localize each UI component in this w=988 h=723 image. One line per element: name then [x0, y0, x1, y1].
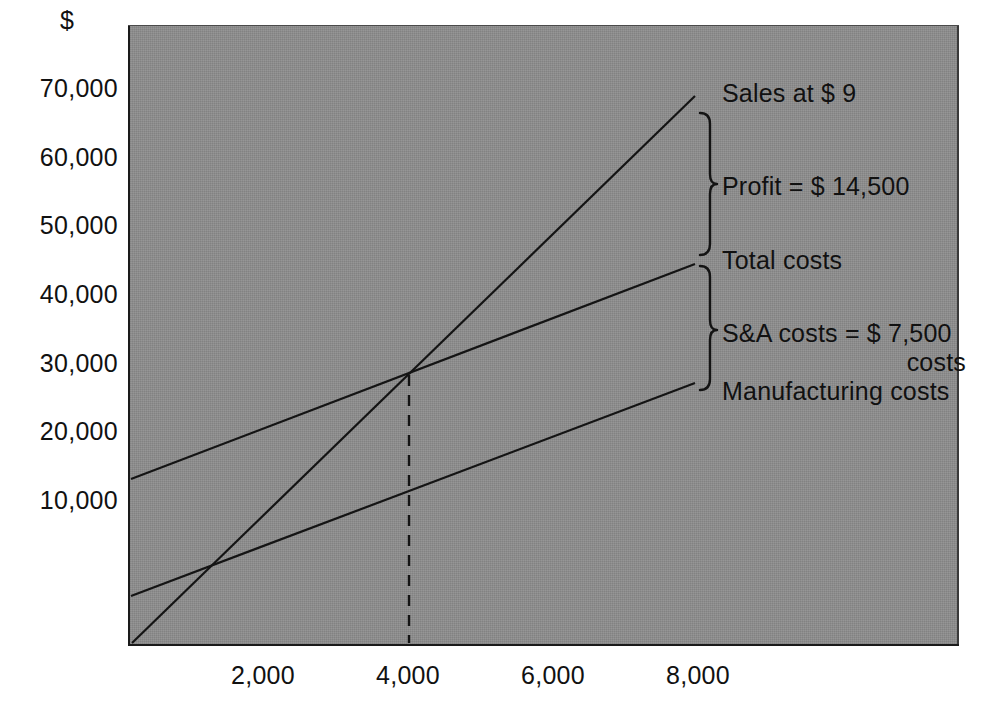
y-tick-label: 30,000: [6, 349, 118, 378]
x-tick-label: 8,000: [638, 661, 758, 690]
y-axis-line: [128, 26, 130, 646]
annotation-profit: Profit = $ 14,500: [722, 171, 910, 202]
breakeven-chart: $ 70,000 60,000 50,000 40,000 30,000 20,…: [0, 0, 988, 723]
x-axis-line: [128, 644, 959, 646]
y-tick-label: 70,000: [6, 74, 118, 103]
annotation-sa-costs-overflow: costs: [722, 347, 966, 378]
annotation-sales: Sales at $ 9: [722, 78, 856, 109]
y-tick-label: 60,000: [6, 143, 118, 172]
y-tick-label: 40,000: [6, 280, 118, 309]
y-tick-label: 20,000: [6, 417, 118, 446]
y-axis-tick-labels: 70,000 60,000 50,000 40,000 30,000 20,00…: [0, 0, 118, 723]
x-tick-label: 6,000: [493, 661, 613, 690]
x-tick-label: 4,000: [348, 661, 468, 690]
plot-border-right: [957, 26, 959, 646]
annotation-total-costs: Total costs: [722, 245, 842, 276]
annotation-manufacturing-costs: Manufacturing costs: [722, 376, 950, 407]
x-tick-label: 2,000: [203, 661, 323, 690]
annotation-sa-costs: S&A costs = $ 7,500: [722, 318, 952, 349]
plot-border-top: [128, 25, 959, 26]
y-tick-label: 50,000: [6, 211, 118, 240]
y-tick-label: 10,000: [6, 486, 118, 515]
